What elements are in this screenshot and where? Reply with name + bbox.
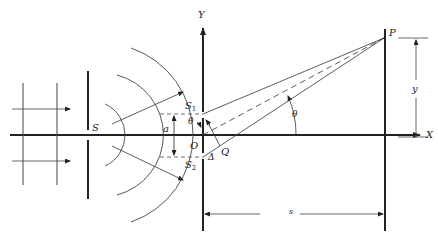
foot-q-label: Q bbox=[221, 147, 229, 157]
slit2-subscript: 2 bbox=[192, 164, 196, 172]
ray-s2-to-p bbox=[203, 38, 384, 157]
slit2-letter: S bbox=[185, 159, 192, 170]
slit1-subscript: 1 bbox=[192, 105, 196, 113]
ray-o-to-p-dashed bbox=[203, 38, 384, 135]
y-axis-label: Y bbox=[198, 10, 205, 20]
slit2-label: S2 bbox=[185, 160, 196, 172]
origin-o-label: O bbox=[190, 141, 198, 151]
ray-s1-to-p bbox=[203, 38, 384, 114]
theta-slit-label: θ bbox=[188, 117, 193, 126]
distance-s-label: s bbox=[289, 208, 293, 216]
theta-origin-label: θ bbox=[292, 110, 297, 119]
double-slit-diagram: Y X P y s S a O Q Δ θ θ S1 S2 bbox=[0, 0, 438, 245]
ray-to-s1 bbox=[112, 92, 183, 124]
path-difference-label: Δ bbox=[208, 153, 215, 162]
source-s-label: S bbox=[92, 123, 99, 133]
point-p-label: P bbox=[389, 28, 396, 38]
slit1-letter: S bbox=[185, 100, 192, 111]
x-axis-label: X bbox=[426, 130, 433, 140]
theta-slit-arc bbox=[197, 122, 201, 127]
diagram-canvas bbox=[0, 0, 438, 245]
perpendicular-s1-q bbox=[207, 121, 220, 146]
slit1-label: S1 bbox=[185, 101, 196, 113]
height-y-label: y bbox=[412, 84, 418, 94]
ray-to-s2 bbox=[112, 146, 183, 180]
slit-separation-a-label: a bbox=[163, 124, 169, 134]
normal-tick bbox=[206, 120, 210, 125]
